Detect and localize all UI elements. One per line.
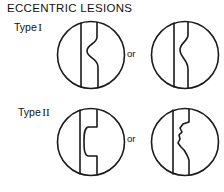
lesion-contour-smooth-sigmoid [87, 22, 98, 88]
page-title: ECCENTRIC LESIONS [7, 2, 132, 14]
eccentric-lesion-type-2-variant-b [150, 102, 220, 182]
row-label-type-1: TypeI [14, 21, 42, 33]
lesion-contour-narrow-angular [180, 22, 188, 88]
eccentric-lesion-type-2-variant-a [56, 102, 126, 182]
vessel-outline-circle [152, 109, 219, 176]
vessel-outline-circle [58, 22, 125, 89]
row-label-type-2: TypeII [18, 106, 50, 118]
vessel-outline-circle [152, 22, 219, 89]
row-label-type-1-numeral: I [37, 21, 42, 33]
lesion-contour-irregular-serrated [178, 109, 189, 175]
eccentric-lesion-type-1-variant-a [56, 17, 126, 93]
conjunction-label-type-1: or [127, 48, 135, 59]
vessel-outline-circle [58, 109, 125, 176]
row-label-type-1-prefix: Type [14, 21, 37, 33]
figure-root: ECCENTRIC LESIONS TypeI or TypeII or [0, 0, 224, 192]
eccentric-lesion-type-1-variant-b [150, 17, 220, 93]
row-label-type-2-numeral: II [41, 106, 50, 118]
row-label-type-2-prefix: Type [18, 106, 41, 118]
conjunction-label-type-2: or [127, 133, 135, 144]
lesion-contour-deep-c-notch [84, 109, 97, 175]
